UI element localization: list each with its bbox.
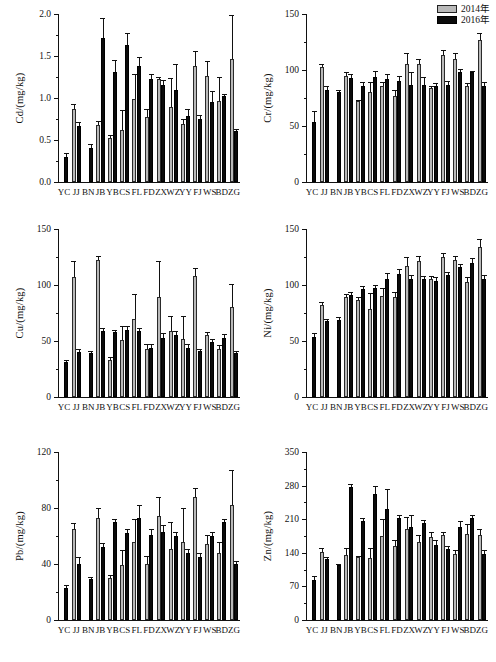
y-axis-minor-tick	[304, 313, 307, 314]
x-axis-tick-label-CS: CS	[119, 187, 130, 197]
error-bar-cap	[71, 523, 76, 524]
bar-YB-2016	[113, 332, 117, 397]
bar-FD-2016	[149, 79, 153, 182]
x-axis-tick-label-YY: YY	[427, 402, 440, 412]
bar-JJ-2014	[72, 277, 76, 397]
error-bar	[159, 261, 160, 297]
bar-CS-2016	[373, 77, 377, 182]
error-bar-cap	[193, 488, 198, 489]
error-bar-cap	[217, 77, 222, 78]
error-bar-cap	[64, 360, 69, 361]
error-bar-cap	[229, 15, 234, 16]
error-bar	[122, 110, 123, 130]
error-bar-cap	[112, 519, 117, 520]
y-axis-tick-label: 120	[0, 447, 51, 457]
bar-FJ-2016	[446, 549, 450, 620]
bar-JB-2016	[101, 331, 105, 397]
bar-FL-2016	[137, 331, 141, 397]
bar-YY-2016	[186, 116, 190, 182]
error-bar-cap	[161, 525, 166, 526]
bar-BN-2016	[89, 148, 93, 182]
bar-JB-2014	[96, 518, 100, 620]
bar-BD-2016	[222, 522, 226, 620]
bar-WZ-2014	[417, 542, 421, 620]
error-bar-cap	[197, 115, 202, 116]
error-bar	[207, 535, 208, 545]
x-axis-tick-label-BD: BD	[216, 402, 229, 412]
bar-FD-2014	[393, 297, 397, 397]
error-bar	[480, 239, 481, 247]
error-bar-cap	[205, 332, 210, 333]
bar-CS-2014	[120, 565, 124, 620]
error-bar	[480, 33, 481, 40]
bar-WZ-2016	[422, 279, 426, 397]
bar-YB-2014	[108, 578, 112, 620]
bar-BD-2016	[222, 96, 226, 182]
x-axis-tick-label-ZG: ZG	[228, 187, 240, 197]
error-bar	[195, 268, 196, 276]
bar-FL-2016	[137, 518, 141, 620]
legend: 2014年 2016年	[437, 3, 490, 25]
bar-FL-2014	[132, 319, 136, 397]
bar-YC-2016	[64, 588, 68, 620]
error-bar	[159, 497, 160, 517]
y-axis-minor-tick	[304, 469, 307, 470]
bar-FJ-2016	[198, 557, 202, 620]
bar-YB-2016	[113, 72, 117, 182]
error-bar-cap	[458, 521, 463, 522]
x-axis-tick-label-YY: YY	[427, 187, 440, 197]
error-bar-cap	[482, 275, 487, 276]
x-axis-tick-label-FL: FL	[380, 402, 391, 412]
bar-FJ-2014	[441, 535, 445, 620]
bar-FJ-2014	[193, 66, 197, 182]
bar-FD-2014	[145, 349, 149, 397]
error-bar	[232, 15, 233, 59]
error-bar-cap	[324, 557, 329, 558]
error-bar-cap	[156, 261, 161, 262]
y-axis-tick-label: 0	[0, 615, 51, 625]
bar-ZX-2016	[161, 85, 165, 182]
bar-CS-2014	[368, 92, 372, 182]
error-bar-cap	[409, 275, 414, 276]
error-bar-cap	[193, 51, 198, 52]
y-axis-tick	[54, 140, 58, 141]
bar-YC-2016	[312, 580, 316, 620]
error-bar-cap	[173, 64, 178, 65]
bar-ZG-2016	[482, 554, 486, 620]
x-axis-tick-label-ZG: ZG	[476, 402, 488, 412]
x-axis-tick-label-BD: BD	[464, 625, 477, 635]
error-bar	[183, 316, 184, 338]
error-bar-cap	[482, 82, 487, 83]
y-axis-tick	[302, 126, 306, 127]
x-axis-line	[58, 620, 240, 621]
x-axis-tick-label-YC: YC	[306, 187, 319, 197]
error-bar	[387, 489, 388, 509]
bar-YC-2016	[312, 337, 316, 397]
bar-YB-2016	[113, 522, 117, 620]
y-axis-tick-label: 50	[248, 336, 299, 346]
bar-CS-2014	[368, 309, 372, 397]
bar-BD-2014	[217, 349, 221, 397]
error-bar	[135, 519, 136, 541]
bar-YC-2016	[312, 122, 316, 182]
x-axis-tick-label-FL: FL	[132, 187, 143, 197]
y-axis-label: Cr/(mg/kg)	[262, 73, 273, 122]
bar-YB-2016	[361, 86, 365, 182]
x-axis-tick-label-YY: YY	[179, 625, 192, 635]
error-bar-cap	[64, 153, 69, 154]
bar-WZ-2014	[169, 331, 173, 397]
x-axis-tick-label-YB: YB	[354, 625, 367, 635]
x-axis-tick-label-WS: WS	[203, 402, 217, 412]
y-axis-tick-label: 0	[248, 615, 299, 625]
x-axis-tick-label-YC: YC	[306, 625, 319, 635]
bar-FJ-2016	[446, 275, 450, 397]
error-bar	[383, 519, 384, 536]
y-axis-tick-label: 2.0	[0, 9, 51, 19]
bar-WS-2016	[458, 72, 462, 182]
y-axis-tick	[54, 564, 58, 565]
error-bar	[195, 51, 196, 66]
error-bar-cap	[222, 334, 227, 335]
bar-BD-2016	[470, 72, 474, 182]
error-bar-cap	[156, 497, 161, 498]
y-axis-tick-label: 140	[248, 548, 299, 558]
